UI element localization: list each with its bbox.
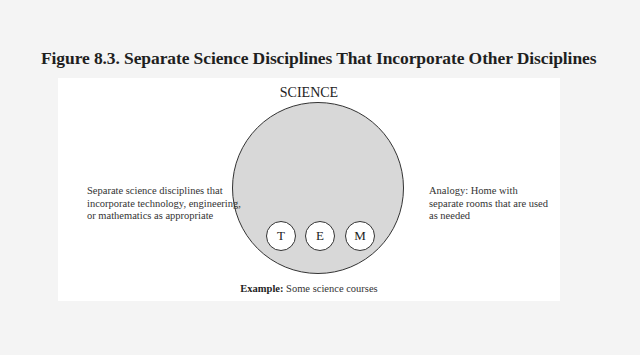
example-label: Example: bbox=[240, 283, 283, 294]
right-analogy: Analogy: Home with separate rooms that a… bbox=[429, 185, 549, 223]
example-text: Some science courses bbox=[283, 283, 377, 294]
science-label: SCIENCE bbox=[58, 85, 560, 101]
mathematics-circle: M bbox=[345, 221, 375, 251]
engineering-circle: E bbox=[305, 221, 335, 251]
diagram-panel: SCIENCE T E M Separate science disciplin… bbox=[58, 78, 560, 301]
example-caption: Example: Some science courses bbox=[58, 283, 560, 294]
science-circle: T E M bbox=[232, 102, 404, 274]
left-description: Separate science disciplines that incorp… bbox=[87, 185, 247, 223]
figure-title: Figure 8.3. Separate Science Disciplines… bbox=[41, 48, 596, 69]
technology-circle: T bbox=[266, 221, 296, 251]
